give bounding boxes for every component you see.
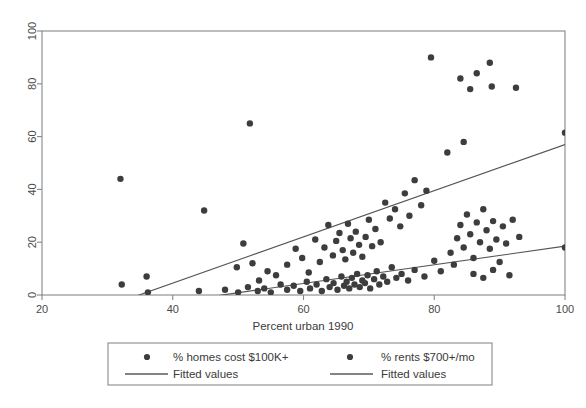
data-point bbox=[480, 206, 486, 212]
data-point bbox=[325, 222, 331, 228]
data-point bbox=[438, 268, 444, 274]
data-point bbox=[353, 228, 359, 234]
data-point bbox=[457, 222, 463, 228]
data-point bbox=[145, 289, 151, 295]
legend-marker-rents-dot bbox=[347, 354, 353, 360]
data-point bbox=[356, 242, 362, 248]
data-point bbox=[406, 213, 412, 219]
data-point bbox=[297, 288, 303, 294]
data-point bbox=[336, 230, 342, 236]
data-point bbox=[349, 275, 355, 281]
data-point bbox=[447, 250, 453, 256]
data-point bbox=[359, 254, 365, 260]
data-point bbox=[290, 283, 296, 289]
data-point bbox=[261, 285, 267, 291]
data-point bbox=[384, 279, 390, 285]
data-point bbox=[264, 268, 270, 274]
data-point bbox=[489, 83, 495, 89]
data-point bbox=[411, 267, 417, 273]
data-point bbox=[369, 243, 375, 249]
data-point bbox=[354, 271, 360, 277]
data-point bbox=[423, 188, 429, 194]
data-point bbox=[490, 267, 496, 273]
data-point bbox=[366, 217, 372, 223]
data-point bbox=[398, 271, 404, 277]
legend-marker-homes-dot bbox=[144, 354, 150, 360]
data-point bbox=[470, 271, 476, 277]
data-point bbox=[500, 223, 506, 229]
data-point bbox=[277, 281, 283, 287]
data-point bbox=[490, 218, 496, 224]
data-point bbox=[431, 257, 437, 263]
data-point bbox=[317, 259, 323, 265]
data-point bbox=[402, 190, 408, 196]
data-point bbox=[392, 206, 398, 212]
data-point bbox=[457, 75, 463, 81]
x-tick-label: 100 bbox=[556, 303, 574, 315]
y-tick-label: 40 bbox=[26, 183, 38, 195]
x-axis-title: Percent urban 1990 bbox=[252, 320, 353, 332]
data-point bbox=[380, 273, 386, 279]
data-point bbox=[143, 273, 149, 279]
data-point bbox=[334, 287, 340, 293]
data-point bbox=[342, 256, 348, 262]
data-point bbox=[345, 221, 351, 227]
data-point bbox=[376, 281, 382, 287]
data-point bbox=[460, 244, 466, 250]
data-point bbox=[306, 269, 312, 275]
data-point bbox=[357, 284, 363, 290]
data-point bbox=[299, 255, 305, 261]
data-point bbox=[503, 240, 509, 246]
data-point bbox=[371, 276, 377, 282]
data-point bbox=[451, 261, 457, 267]
data-point bbox=[119, 281, 125, 287]
legend-label-rents: % rents $700+/mo bbox=[381, 351, 475, 363]
data-point bbox=[268, 289, 274, 295]
data-point bbox=[487, 59, 493, 65]
data-point bbox=[477, 239, 483, 245]
data-point bbox=[319, 288, 325, 294]
data-point bbox=[362, 234, 368, 240]
data-point bbox=[338, 273, 344, 279]
y-tick-label: 20 bbox=[26, 236, 38, 248]
legend-label-homes: % homes cost $100K+ bbox=[173, 351, 289, 363]
data-point bbox=[510, 217, 516, 223]
data-point bbox=[307, 285, 313, 291]
y-tick-label: 60 bbox=[26, 130, 38, 142]
data-point bbox=[421, 273, 427, 279]
data-point bbox=[196, 288, 202, 294]
chart-canvas: 020406080100 20406080100 Percent urban 1… bbox=[0, 0, 586, 408]
legend-label-fitted-rents: Fitted values bbox=[381, 368, 446, 380]
data-point bbox=[411, 177, 417, 183]
data-point bbox=[377, 239, 383, 245]
y-tick-label: 0 bbox=[26, 292, 38, 298]
data-point bbox=[389, 264, 395, 270]
data-point bbox=[506, 272, 512, 278]
data-point bbox=[343, 279, 349, 285]
data-point bbox=[480, 275, 486, 281]
data-point bbox=[235, 289, 241, 295]
data-point bbox=[387, 215, 393, 221]
legend: % homes cost $100K+ % rents $700+/mo Fit… bbox=[108, 343, 492, 385]
data-point bbox=[470, 255, 476, 261]
data-point bbox=[454, 235, 460, 241]
data-point bbox=[340, 247, 346, 253]
data-point bbox=[256, 277, 262, 283]
data-point bbox=[201, 207, 207, 213]
data-point bbox=[460, 139, 466, 145]
data-point bbox=[464, 211, 470, 217]
data-point bbox=[367, 285, 373, 291]
data-point bbox=[372, 226, 378, 232]
data-point bbox=[255, 288, 261, 294]
data-point bbox=[321, 244, 327, 250]
data-point bbox=[234, 264, 240, 270]
data-point bbox=[330, 252, 336, 258]
x-tick-label: 60 bbox=[297, 303, 309, 315]
data-point bbox=[493, 236, 499, 242]
data-point bbox=[418, 202, 424, 208]
x-tick-label: 80 bbox=[428, 303, 440, 315]
data-point bbox=[393, 275, 399, 281]
data-point bbox=[397, 223, 403, 229]
data-point bbox=[496, 259, 502, 265]
data-point bbox=[333, 238, 339, 244]
